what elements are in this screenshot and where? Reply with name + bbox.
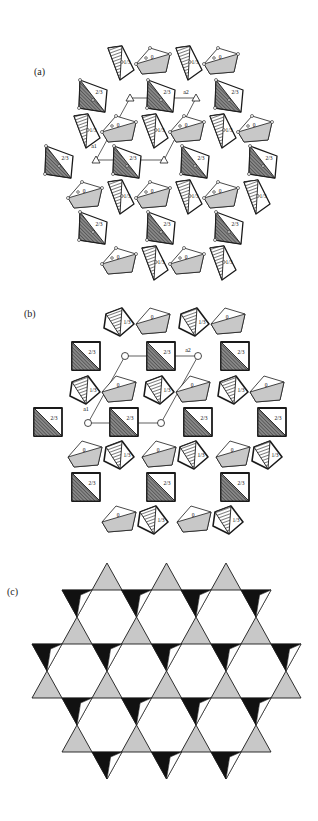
vertex-marker [237,53,240,56]
tile-label-one-third: 1/3 [225,127,232,133]
tile-two-thirds: 2/3 [72,473,100,501]
tile-two-thirds: 2/3 [184,408,212,436]
vertex-marker [203,197,206,200]
vertex-marker [169,263,172,266]
vertex-marker [78,107,81,110]
tile-label-zero: 0 [117,122,120,128]
tile-label-one-third: 1/3 [89,387,96,393]
tile-label-one-third: 1/3 [123,59,130,65]
hexagon-site-icon [195,353,202,360]
tile-pair: 1/30 [102,506,168,534]
tile-label-zero: 0 [117,254,120,260]
tile-label-two-thirds: 2/3 [200,415,207,421]
gray-up-triangle [92,563,122,590]
vertex-marker [79,79,82,82]
black-down-triangle [241,698,271,725]
atom-marker [160,231,163,234]
atom-marker [145,57,148,60]
tile-label-one-third: 1/3 [123,319,130,325]
tile-label-two-thirds: 2/3 [95,221,102,227]
vertex-marker [217,181,220,184]
black-down-triangle [122,698,152,725]
black-down-triangle [92,752,122,779]
tile-label-two-thirds: 2/3 [197,155,204,161]
panel-b: a1a21/301/301/301/301/301/301/301/301/30… [34,308,286,534]
tile-label-one-third: 1/3 [232,517,239,523]
vertex-marker [115,115,118,118]
tile-label-zero: 0 [185,254,188,260]
tile-label-zero: 0 [231,447,234,453]
vertex-marker [237,131,240,134]
gray-up-triangle [152,671,182,698]
tile-pair: 1/30 [135,180,203,214]
black-down-triangle [152,644,182,671]
gray-up-triangle [181,725,211,752]
atom-marker [228,231,231,234]
vertex-marker [203,121,206,124]
tile-label-zero: 0 [226,314,229,320]
tile-label-zero: 0 [185,122,188,128]
gray-up-triangle [122,725,152,752]
tile-label-two-thirds: 2/3 [95,89,102,95]
black-down-triangle [32,644,62,671]
tile-pair: 1/30 [179,308,245,336]
tile-label-one-third: 1/3 [157,259,164,265]
gray-up-triangle [211,671,241,698]
tile-two-thirds: 2/3 [147,342,175,370]
vertex-marker [45,145,48,148]
atom-marker [213,57,216,60]
tile-pair: 1/30 [70,376,136,404]
vertex-marker [149,47,152,50]
axis-label-a1: a1 [83,406,89,412]
gray-up-triangle [211,563,241,590]
atom-marker [77,191,80,194]
atom-marker [92,99,95,102]
tile-pair: 1/30 [218,376,284,404]
tile-two-thirds: 2/3 [78,211,108,245]
tile-label-zero: 0 [192,512,195,518]
tile-label-one-third: 1/3 [89,127,96,133]
hatched-region [210,246,224,280]
gray-up-triangle [241,725,271,752]
vertex-marker [180,173,183,176]
atom-marker [58,165,61,168]
tile-label-zero: 0 [191,382,194,388]
vertex-marker [169,53,172,56]
triangle-site-icon [192,94,200,101]
black-down-triangle [211,752,241,779]
atom-marker [145,191,148,194]
black-down-triangle [92,644,122,671]
tile-label-one-third: 1/3 [123,452,130,458]
atom-marker [228,99,231,102]
tile-two-thirds: 2/3 [44,145,74,179]
vertex-marker [183,247,186,250]
tile-label-two-thirds: 2/3 [163,89,170,95]
gray-up-triangle [152,563,182,590]
tile-two-thirds: 2/3 [78,79,108,113]
hexagon-site-icon [85,420,92,427]
tile-label-two-thirds: 2/3 [61,155,68,161]
hexagon-site-icon [122,353,129,360]
tile-label-two-thirds: 2/3 [163,349,170,355]
black-down-triangle [62,698,92,725]
tile-label-zero: 0 [253,122,256,128]
vertex-marker [147,211,150,214]
vertex-marker [135,121,138,124]
triangle-site-icon [126,94,134,101]
tile-label-one-third: 1/3 [225,259,232,265]
crystal-structure-diagram: a1a21/301/301/301/301/301/301/301/301/30… [0,0,318,821]
tile-two-thirds: 2/3 [72,342,100,370]
atom-marker [247,125,250,128]
tile-label-one-third: 1/3 [157,127,164,133]
hatched-region [176,180,190,214]
tile-label-two-thirds: 2/3 [88,349,95,355]
tile-pair: 1/30 [176,46,240,80]
black-down-triangle [211,644,241,671]
tile-two-thirds: 2/3 [214,211,244,245]
tile-label-zero: 0 [157,447,160,453]
tile-label-one-third: 1/3 [157,517,164,523]
vertex-marker [146,107,149,110]
tile-pair: 1/30 [104,308,170,336]
vertex-marker [214,239,217,242]
tile-label-two-thirds: 2/3 [237,480,244,486]
